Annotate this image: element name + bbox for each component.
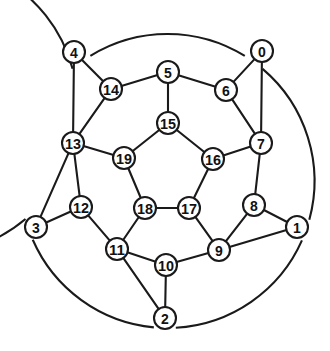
edge-6-7	[232, 98, 256, 134]
graph-node-3[interactable]: 3	[25, 216, 47, 238]
edge-0-7	[261, 61, 262, 133]
edge-18-19	[128, 167, 141, 199]
node-label-13: 13	[65, 136, 81, 152]
graph-node-18[interactable]: 18	[134, 197, 156, 219]
node-label-9: 9	[215, 243, 223, 259]
edge-16-17	[193, 168, 208, 199]
node-label-2: 2	[161, 311, 169, 327]
edge-11-18	[123, 216, 140, 240]
edge-7-16	[222, 146, 251, 156]
outer-ring-arc-1-2	[176, 240, 302, 327]
node-label-0: 0	[258, 44, 266, 60]
edge-19-15	[132, 129, 160, 152]
edge-8-1	[263, 210, 288, 223]
edge-11-12	[88, 215, 111, 242]
node-label-12: 12	[73, 200, 89, 216]
node-label-14: 14	[103, 82, 119, 98]
graph-node-19[interactable]: 19	[113, 147, 135, 169]
node-label-11: 11	[109, 242, 125, 258]
edge-8-9	[225, 213, 248, 242]
graph-node-9[interactable]: 9	[208, 239, 230, 261]
node-label-3: 3	[32, 220, 40, 236]
edge-10-2	[165, 275, 166, 308]
graph-node-7[interactable]: 7	[250, 132, 272, 154]
graph-node-12[interactable]: 12	[70, 196, 92, 218]
edge-12-3	[45, 211, 72, 223]
edge-4-14	[81, 59, 104, 82]
node-label-18: 18	[137, 201, 153, 217]
node-label-10: 10	[158, 258, 174, 274]
edge-7-8	[255, 153, 260, 195]
graph-node-4[interactable]: 4	[63, 41, 85, 63]
edge-15-16	[176, 129, 205, 153]
edge-9-17	[195, 216, 213, 242]
graph-node-5[interactable]: 5	[157, 61, 179, 83]
edge-14-13	[79, 97, 106, 135]
node-label-4: 4	[70, 45, 78, 61]
edge-12-13	[74, 153, 80, 197]
node-label-7: 7	[257, 136, 265, 152]
edge-2-11	[123, 257, 160, 310]
graph-diagram: 012345678910111213141516171819	[0, 0, 330, 351]
graph-node-6[interactable]: 6	[215, 79, 237, 101]
graph-node-1[interactable]: 1	[286, 216, 308, 238]
outer-ring-arc-2-3	[33, 240, 154, 328]
node-label-19: 19	[116, 151, 132, 167]
node-label-6: 6	[222, 83, 230, 99]
node-label-1: 1	[293, 220, 301, 236]
outer-ring-arc-0-4	[90, 34, 244, 56]
edge-10-11	[127, 252, 157, 262]
graph-node-17[interactable]: 17	[178, 197, 200, 219]
graph-node-8[interactable]: 8	[243, 194, 265, 216]
edge-9-10	[176, 253, 210, 263]
edge-6-0	[233, 58, 255, 82]
edge-13-19	[83, 146, 115, 155]
graph-canvas: 012345678910111213141516171819	[0, 0, 330, 351]
node-label-8: 8	[250, 198, 258, 214]
node-label-5: 5	[164, 65, 172, 81]
graph-node-15[interactable]: 15	[157, 112, 179, 134]
graph-node-10[interactable]: 10	[155, 254, 177, 276]
edge-3-13	[40, 152, 69, 218]
edge-1-9	[229, 230, 288, 247]
edge-5-6	[178, 75, 217, 87]
graph-node-0[interactable]: 0	[251, 40, 273, 62]
graph-node-2[interactable]: 2	[154, 307, 176, 329]
graph-node-11[interactable]: 11	[106, 238, 128, 260]
edge-14-5	[121, 75, 159, 86]
graph-node-13[interactable]: 13	[62, 132, 84, 154]
node-label-15: 15	[160, 116, 176, 132]
edge-13-4	[73, 62, 74, 133]
graph-node-14[interactable]: 14	[100, 78, 122, 100]
node-label-17: 17	[181, 201, 197, 217]
graph-node-16[interactable]: 16	[202, 148, 224, 170]
node-label-16: 16	[205, 152, 221, 168]
